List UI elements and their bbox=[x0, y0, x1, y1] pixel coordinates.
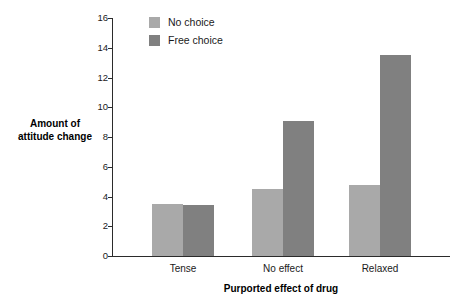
y-axis-tick-label-text: 0 bbox=[88, 251, 108, 261]
y-axis-tick-label: 6 bbox=[88, 162, 108, 172]
x-axis-line bbox=[112, 256, 450, 257]
y-axis-tick bbox=[108, 256, 113, 257]
y-axis-tick-label: 2 bbox=[88, 221, 108, 231]
legend-label: Free choice bbox=[168, 35, 223, 46]
bar bbox=[283, 121, 314, 256]
x-axis-category-label: Relaxed bbox=[330, 263, 430, 274]
y-axis-tick-label: 0 bbox=[88, 251, 108, 261]
bar bbox=[183, 205, 214, 256]
bar bbox=[152, 204, 183, 256]
y-axis-tick-label: 16 bbox=[88, 13, 108, 23]
legend-swatch-icon bbox=[149, 17, 160, 28]
bar bbox=[380, 55, 411, 256]
y-axis-title-line-1: Amount of bbox=[6, 118, 104, 131]
bar bbox=[349, 185, 380, 256]
y-axis-tick-label: 10 bbox=[88, 102, 108, 112]
bar-chart: Amount of attitude change 0246810121416 … bbox=[0, 0, 457, 308]
legend-swatch-icon bbox=[149, 35, 160, 46]
x-axis-category-label: Tense bbox=[133, 263, 233, 274]
y-axis-tick-label-text: 2 bbox=[88, 221, 108, 231]
y-axis-tick-label: 12 bbox=[88, 73, 108, 83]
y-axis-tick-label-text: 4 bbox=[88, 192, 108, 202]
legend-item: No choice bbox=[149, 15, 223, 30]
y-axis-tick-label-text: 8 bbox=[88, 132, 108, 142]
x-axis-title: Purported effect of drug bbox=[112, 283, 450, 294]
y-axis-tick-label: 8 bbox=[88, 132, 108, 142]
chart-legend: No choiceFree choice bbox=[149, 15, 223, 51]
y-axis-tick-label-text: 12 bbox=[88, 73, 108, 83]
y-axis-tick-label-text: 16 bbox=[88, 13, 108, 23]
y-axis-tick-label-text: 14 bbox=[88, 43, 108, 53]
bars-layer bbox=[112, 18, 450, 256]
y-axis-tick-label: 14 bbox=[88, 43, 108, 53]
y-axis-tick-label-text: 10 bbox=[88, 102, 108, 112]
y-axis-tick-label: 4 bbox=[88, 192, 108, 202]
legend-label: No choice bbox=[168, 17, 215, 28]
y-axis-tick-label-text: 6 bbox=[88, 162, 108, 172]
bar bbox=[252, 189, 283, 256]
legend-item: Free choice bbox=[149, 33, 223, 48]
x-axis-category-label: No effect bbox=[233, 263, 333, 274]
